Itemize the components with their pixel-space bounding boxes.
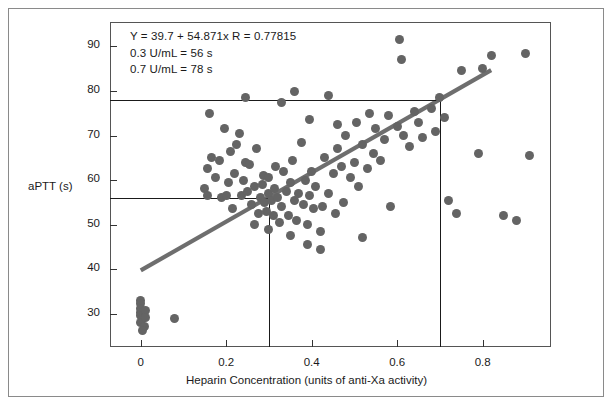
data-point xyxy=(444,196,453,205)
data-point xyxy=(264,225,273,234)
data-point xyxy=(333,144,342,153)
data-point xyxy=(277,202,286,211)
data-point xyxy=(275,218,284,227)
data-point xyxy=(499,211,508,220)
data-point xyxy=(297,138,306,147)
data-point xyxy=(203,164,212,173)
data-point xyxy=(331,209,340,218)
data-point xyxy=(311,182,320,191)
data-point xyxy=(305,191,314,200)
data-point xyxy=(307,167,316,176)
data-point xyxy=(320,153,329,162)
data-point xyxy=(487,51,496,60)
data-point xyxy=(435,93,444,102)
data-point xyxy=(211,173,220,182)
data-point xyxy=(303,220,312,229)
data-point xyxy=(410,107,419,116)
y-tick-label: 80 xyxy=(62,83,100,95)
data-point xyxy=(232,140,241,149)
data-point xyxy=(141,313,150,322)
x-tick-label: 0.6 xyxy=(377,356,417,368)
data-point xyxy=(294,189,303,198)
data-point xyxy=(239,176,248,185)
data-point xyxy=(203,191,212,200)
y-tick-label: 70 xyxy=(62,128,100,140)
data-point xyxy=(316,245,325,254)
data-point xyxy=(427,104,436,113)
data-point xyxy=(230,169,239,178)
data-point xyxy=(358,140,367,149)
x-tick-label: 0.4 xyxy=(292,356,332,368)
data-point xyxy=(440,113,449,122)
data-point xyxy=(333,120,342,129)
data-point xyxy=(170,314,179,323)
x-axis-label: Heparin Concentration (units of anti-Xa … xyxy=(0,374,613,386)
reference-line-horizontal xyxy=(110,100,440,101)
data-point xyxy=(247,200,256,209)
data-point xyxy=(457,66,466,75)
data-point xyxy=(316,227,325,236)
data-point xyxy=(418,133,427,142)
x-tick-label: 0 xyxy=(121,356,161,368)
y-tick-label: 90 xyxy=(62,38,100,50)
x-tick-label: 0.2 xyxy=(206,356,246,368)
data-point xyxy=(339,198,348,207)
data-point xyxy=(205,109,214,118)
data-point xyxy=(395,35,404,44)
data-point xyxy=(393,122,402,131)
data-point xyxy=(292,216,301,225)
figure-container: Y = 39.7 + 54.871x R = 0.77815 0.3 U/mL … xyxy=(0,0,613,406)
plot-canvas xyxy=(110,22,551,347)
data-point xyxy=(329,169,338,178)
data-point xyxy=(384,111,393,120)
data-point xyxy=(228,204,237,213)
data-point xyxy=(414,118,423,127)
data-point xyxy=(474,149,483,158)
data-point xyxy=(252,144,261,153)
data-point xyxy=(452,209,461,218)
data-point xyxy=(324,91,333,100)
data-point xyxy=(303,240,312,249)
data-point xyxy=(431,127,440,136)
data-point xyxy=(301,176,310,185)
data-point xyxy=(341,131,350,140)
y-tick-label: 30 xyxy=(62,306,100,318)
data-point xyxy=(399,131,408,140)
data-point xyxy=(363,164,372,173)
reference-line-vertical xyxy=(269,198,270,347)
data-point xyxy=(478,64,487,73)
data-point xyxy=(279,167,288,176)
data-point xyxy=(309,204,318,213)
reference-line-vertical xyxy=(440,100,441,347)
data-point xyxy=(264,173,273,182)
data-point xyxy=(305,115,314,124)
data-point xyxy=(299,200,308,209)
data-point xyxy=(337,162,346,171)
data-point xyxy=(273,193,282,202)
data-point xyxy=(235,129,244,138)
x-tick-label: 0.8 xyxy=(463,356,503,368)
data-point xyxy=(512,216,521,225)
data-point xyxy=(290,87,299,96)
data-point xyxy=(282,187,291,196)
data-point xyxy=(138,326,147,335)
data-point xyxy=(358,233,367,242)
data-point xyxy=(324,189,333,198)
data-point xyxy=(222,191,231,200)
data-point xyxy=(371,124,380,133)
data-point xyxy=(215,156,224,165)
y-tick-label: 40 xyxy=(62,261,100,273)
data-point xyxy=(365,109,374,118)
data-point xyxy=(288,156,297,165)
data-point xyxy=(386,202,395,211)
data-point xyxy=(525,151,534,160)
data-point xyxy=(270,184,279,193)
data-point xyxy=(521,49,530,58)
data-point xyxy=(277,98,286,107)
data-point xyxy=(250,220,259,229)
data-point xyxy=(224,178,233,187)
data-point xyxy=(245,160,254,169)
data-point xyxy=(286,178,295,187)
data-point xyxy=(397,55,406,64)
y-tick-label: 50 xyxy=(62,217,100,229)
